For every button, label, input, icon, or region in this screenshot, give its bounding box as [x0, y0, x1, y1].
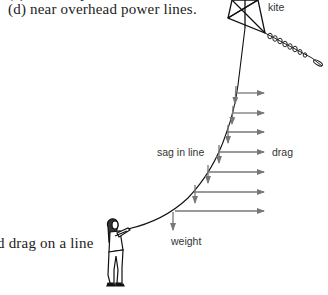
kite-tail-icon: [265, 33, 323, 67]
sag-in-line-label: sag in line: [157, 146, 204, 158]
kite-label: kite: [268, 1, 284, 13]
person-figure-icon: [107, 219, 130, 286]
weight-label: weight: [171, 235, 201, 247]
kite-icon: [228, 0, 265, 33]
drag-label: drag: [272, 146, 293, 158]
weight-arrows: [173, 86, 236, 230]
